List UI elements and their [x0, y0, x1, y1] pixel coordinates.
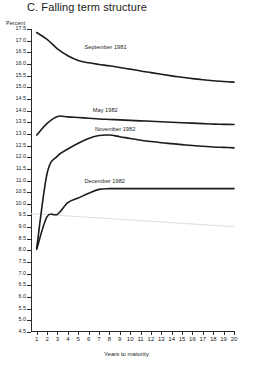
y-tick-label: 12.0: [16, 154, 27, 159]
series-label-september-1981: September 1981: [85, 44, 127, 50]
y-tick-label: 7.5: [19, 259, 27, 264]
x-tick-label: 13: [158, 336, 165, 342]
x-tick-label: 20: [231, 336, 238, 342]
x-tick-label: 18: [210, 336, 217, 342]
chart-page: C. Falling term structure Percent 17.517…: [0, 0, 253, 367]
y-tick-label: 8.5: [19, 236, 27, 241]
x-tick-label: 3: [56, 336, 59, 342]
series-label-december-1982: December 1982: [85, 178, 125, 184]
series-line-may-1982: [37, 116, 234, 135]
x-tick-label: 9: [118, 336, 121, 342]
series-line-november-1982: [37, 135, 234, 248]
y-tick-label: 16.5: [16, 50, 27, 55]
y-tick-label: 10.0: [16, 201, 27, 206]
series-line-september-1981: [37, 33, 234, 83]
y-tick-label: 10.5: [16, 189, 27, 194]
plot-area: 17.517.016.516.015.515.014.514.013.513.0…: [31, 29, 234, 332]
y-tick-label: 6.0: [19, 294, 27, 299]
x-tick-label: 2: [45, 336, 48, 342]
x-tick-label: 11: [137, 336, 143, 342]
x-tick-label: 5: [77, 336, 80, 342]
x-tick-mark: [234, 331, 235, 335]
y-tick-label: 17.0: [16, 38, 27, 43]
x-tick-label: 7: [97, 336, 100, 342]
x-tick-label: 19: [220, 336, 227, 342]
x-tick-label: 10: [127, 336, 134, 342]
y-tick-label: 12.5: [16, 143, 27, 148]
y-tick-mark: [27, 332, 31, 333]
y-tick-label: 5.0: [19, 318, 27, 323]
x-tick-label: 15: [179, 336, 186, 342]
series-label-may-1982: May 1982: [93, 107, 118, 113]
series-lines: [31, 29, 234, 332]
x-tick-label: 6: [87, 336, 90, 342]
x-tick-label: 1: [35, 336, 38, 342]
series-label-november-1982: November 1982: [95, 126, 135, 132]
y-tick-label: 11.0: [16, 178, 26, 183]
page-title: C. Falling term structure: [27, 1, 147, 13]
y-tick-label: 14.5: [16, 96, 27, 101]
y-tick-label: 13.0: [16, 131, 27, 136]
y-tick-label: 6.5: [19, 283, 27, 288]
x-axis-title: Years to maturity: [0, 351, 253, 357]
y-tick-label: 4.5: [19, 329, 27, 334]
x-tick-label: 4: [66, 336, 69, 342]
y-tick-label: 15.0: [16, 85, 27, 90]
y-tick-label: 8.0: [19, 248, 27, 253]
paper-fold-artifact: [31, 214, 234, 227]
y-tick-label: 13.5: [16, 120, 27, 125]
y-tick-label: 7.0: [19, 271, 27, 276]
x-tick-label: 12: [148, 336, 155, 342]
y-tick-label: 15.5: [16, 73, 27, 78]
y-tick-label: 14.0: [16, 108, 27, 113]
y-tick-label: 5.5: [19, 306, 27, 311]
y-tick-label: 9.0: [19, 224, 27, 229]
x-tick-label: 16: [189, 336, 196, 342]
series-line-december-1982: [37, 189, 234, 250]
y-tick-label: 9.5: [19, 213, 27, 218]
y-tick-label: 11.5: [16, 166, 26, 171]
x-tick-label: 14: [168, 336, 175, 342]
y-tick-label: 16.0: [16, 61, 27, 66]
x-tick-label: 8: [108, 336, 111, 342]
y-tick-label: 17.5: [16, 26, 27, 31]
x-tick-label: 17: [200, 336, 207, 342]
